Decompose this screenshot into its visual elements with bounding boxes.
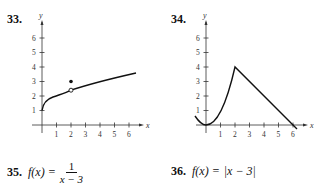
svg-text:1: 1 — [55, 130, 59, 139]
problem-number-35: 35. — [7, 165, 22, 180]
function-lhs: f(x) = — [28, 165, 56, 180]
svg-text:4: 4 — [32, 63, 36, 72]
svg-text:1: 1 — [196, 106, 200, 115]
svg-text:1: 1 — [32, 106, 36, 115]
svg-text:2: 2 — [32, 92, 36, 101]
function-lhs: f(x) = — [192, 164, 220, 179]
denominator: x − 3 — [60, 173, 83, 185]
svg-text:4: 4 — [98, 130, 102, 139]
problem-number-36: 36. — [171, 164, 186, 179]
svg-text:5: 5 — [113, 130, 117, 139]
svg-text:4: 4 — [196, 63, 200, 72]
svg-text:4: 4 — [262, 130, 266, 139]
svg-text:6: 6 — [291, 130, 295, 139]
function-rhs: |x − 3| — [224, 164, 256, 179]
svg-text:2: 2 — [69, 130, 73, 139]
problem-35: 35. f(x) = 1 x − 3 — [7, 160, 83, 185]
svg-text:y: y — [38, 11, 43, 20]
svg-text:3: 3 — [196, 77, 200, 86]
svg-text:3: 3 — [32, 77, 36, 86]
svg-text:6: 6 — [127, 130, 131, 139]
svg-text:3: 3 — [248, 130, 252, 139]
svg-text:5: 5 — [277, 130, 281, 139]
graph-34: y x 12 34 56 12 34 56 — [195, 11, 314, 139]
svg-text:3: 3 — [84, 130, 88, 139]
svg-text:6: 6 — [32, 34, 36, 43]
numerator: 1 — [66, 160, 78, 173]
svg-text:2: 2 — [196, 92, 200, 101]
svg-text:1: 1 — [219, 130, 223, 139]
graph-33: y x 12 34 56 12 34 56 — [32, 11, 150, 139]
svg-text:x: x — [145, 121, 150, 130]
svg-text:x: x — [309, 121, 314, 130]
svg-text:5: 5 — [196, 48, 200, 57]
svg-text:2: 2 — [233, 130, 237, 139]
svg-text:5: 5 — [32, 48, 36, 57]
problem-36: 36. f(x) = |x − 3| — [171, 164, 256, 179]
svg-text:6: 6 — [196, 34, 200, 43]
svg-text:y: y — [202, 11, 207, 20]
fraction: 1 x − 3 — [60, 160, 83, 185]
